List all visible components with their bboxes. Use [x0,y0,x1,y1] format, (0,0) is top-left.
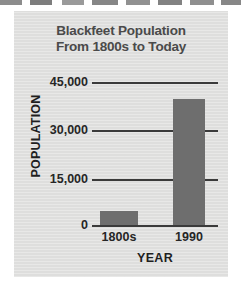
chart-panel: Blackfeet Population From 1800s to Today… [14,11,228,277]
y-tick-label-45000: 45,000 [50,76,88,88]
scan-edge-strip [0,0,241,5]
x-axis-title: YEAR [92,251,218,265]
y-tick-label-15000: 15,000 [50,173,88,185]
y-axis-title: POPULATION [29,76,43,196]
x-axis-baseline [92,225,218,227]
y-tick-label-0: 0 [81,219,88,231]
gridline-45000 [92,82,218,84]
y-tick-label-30000: 30,000 [50,124,88,136]
chart-title: Blackfeet Population From 1800s to Today [14,23,228,55]
bar-1990 [173,99,205,225]
x-tick-label-1990: 1990 [162,230,216,244]
bar-1800s [100,211,138,225]
chart-title-line-2: From 1800s to Today [14,39,228,55]
x-tick-label-1800s: 1800s [92,230,146,244]
chart-title-line-1: Blackfeet Population [14,23,228,39]
